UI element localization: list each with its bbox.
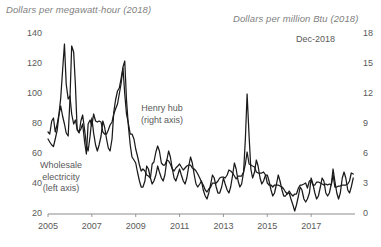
left-axis-tick-label: 100 (16, 88, 42, 98)
right-axis-tick-label: 15 (363, 58, 381, 68)
left-axis-tick-label: 60 (16, 148, 42, 158)
right-axis-tick-label: 0 (363, 208, 381, 218)
right-axis-tick-label: 12 (363, 88, 381, 98)
right-axis-tick-label: 6 (363, 148, 381, 158)
x-axis-tick-label: 2009 (116, 221, 156, 231)
series-lines (48, 44, 353, 211)
right-axis-tick-label: 9 (363, 118, 381, 128)
left-axis-tick-label: 20 (16, 208, 42, 218)
x-axis-tick-label: 2007 (72, 221, 112, 231)
x-axis-tick-label: 2013 (203, 221, 243, 231)
right-axis-tick-label: 3 (363, 178, 381, 188)
plot-area (0, 0, 381, 247)
left-axis-tick-label: 140 (16, 28, 42, 38)
left-axis-tick-label: 40 (16, 178, 42, 188)
left-axis-tick-label: 120 (16, 58, 42, 68)
left-axis-tick-label: 80 (16, 118, 42, 128)
right-axis-tick-label: 18 (363, 28, 381, 38)
x-axis-tick-label: 2017 (291, 221, 331, 231)
series-line-henry-hub (48, 44, 353, 196)
x-axis-tick-label: 2005 (28, 221, 68, 231)
chart-root: Dollars per megawatt-hour (2018) Dollars… (0, 0, 381, 247)
x-axis-tick-label: 2015 (247, 221, 287, 231)
x-axis-tick-label: 2011 (160, 221, 200, 231)
axis-lines (48, 214, 355, 217)
